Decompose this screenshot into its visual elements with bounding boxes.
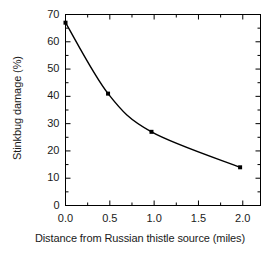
y-axis-label-container: Stinkbug damage (%): [11, 8, 25, 208]
x-tick-label: 1.0: [134, 212, 174, 224]
x-axis-label: Distance from Russian thistle source (mi…: [0, 232, 280, 244]
y-tick-label: 30: [30, 117, 60, 129]
x-tick-label: 0.0: [46, 212, 86, 224]
x-tick-label: 1.5: [178, 212, 218, 224]
y-tick-label: 10: [30, 171, 60, 183]
plot-frame: [66, 15, 261, 206]
y-tick-label: 60: [30, 35, 60, 47]
y-axis-label: Stinkbug damage (%): [11, 8, 23, 208]
x-tick-label: 2.0: [223, 212, 263, 224]
y-tick-label: 50: [30, 62, 60, 74]
y-tick-label: 40: [30, 89, 60, 101]
x-tick-label: 0.5: [90, 212, 130, 224]
y-tick-label: 20: [30, 144, 60, 156]
chart-figure: 010203040506070 0.00.51.01.52.0 Stinkbug…: [0, 0, 280, 255]
y-tick-label: 0: [30, 199, 60, 211]
y-tick-label: 70: [30, 8, 60, 20]
